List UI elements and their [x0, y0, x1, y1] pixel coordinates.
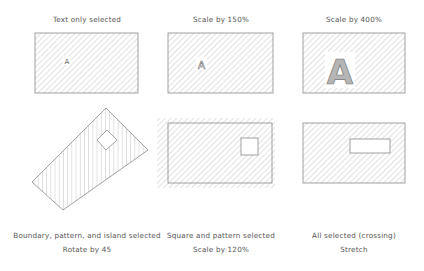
panel-caption-line2: Rotate by 45: [63, 245, 111, 254]
hatch-pattern: [25, 100, 155, 215]
panel-rotate-45: Boundary, pattern, and island selected R…: [13, 100, 160, 254]
panel-caption: Scale by 400%: [326, 15, 382, 24]
hatch-editing-diagram: Text only selected A Scale by 150% A Sca…: [0, 0, 424, 271]
text-object: A: [65, 58, 70, 66]
panel-scale-150: Scale by 150% A: [168, 15, 273, 93]
hatch-pattern: [168, 33, 273, 93]
panel-caption-line2: Stretch: [340, 245, 367, 254]
panel-caption: Text only selected: [52, 15, 121, 24]
island-rectangle: [350, 139, 390, 153]
panel-caption-line1: Square and pattern selected: [167, 231, 275, 240]
text-object: A: [327, 52, 354, 92]
panel-caption: Scale by 150%: [193, 15, 249, 24]
panel-scale-120: Square and pattern selected Scale by 120…: [157, 118, 275, 254]
text-object: A: [198, 59, 206, 72]
panel-caption-line2: Scale by 120%: [193, 245, 249, 254]
panel-caption-line1: All selected (crossing): [312, 231, 396, 240]
panel-text-only-selected: Text only selected A: [35, 15, 138, 93]
panel-caption-line1: Boundary, pattern, and island selected: [13, 231, 160, 240]
island-square: [241, 138, 258, 155]
panel-scale-400: Scale by 400% A: [303, 15, 405, 93]
hatch-pattern: [35, 33, 138, 93]
panel-stretch: All selected (crossing) Stretch: [303, 123, 405, 254]
